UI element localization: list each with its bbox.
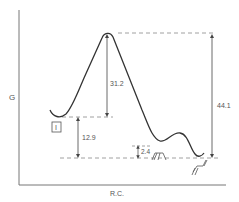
energy-diagram: G R.C. 31.2 12.9 44.1 2.4 I bbox=[0, 0, 239, 202]
species-i-label: I bbox=[55, 124, 57, 131]
x-axis-label: R.C. bbox=[110, 190, 124, 197]
label-2-4: 2.4 bbox=[141, 148, 150, 155]
y-axis-label: G bbox=[9, 93, 15, 102]
species-iii-symbol bbox=[192, 160, 207, 175]
label-31-2: 31.2 bbox=[110, 80, 124, 87]
reaction-curve bbox=[50, 33, 204, 156]
label-44-1: 44.1 bbox=[217, 102, 231, 109]
species-ii-symbol bbox=[152, 153, 166, 160]
label-12-9: 12.9 bbox=[82, 134, 96, 141]
